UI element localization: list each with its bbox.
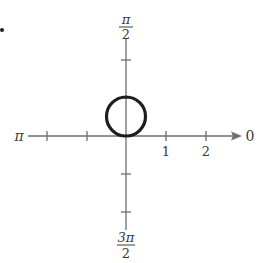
label-angle-pi: π — [13, 128, 24, 144]
polar-plot: π 2 π 0 3π 2 1 2 — [0, 0, 270, 263]
bullet-marker — [0, 28, 4, 32]
label-radial-1: 1 — [162, 144, 170, 159]
label-angle-0: 0 — [246, 128, 255, 144]
label-radial-2: 2 — [202, 144, 210, 159]
label-angle-pi-over-2-num: π — [121, 12, 131, 27]
label-angle-3pi-over-2-den: 2 — [122, 246, 130, 261]
label-angle-pi-over-2-den: 2 — [122, 27, 130, 42]
label-angle-3pi-over-2-num: 3π — [118, 230, 135, 245]
